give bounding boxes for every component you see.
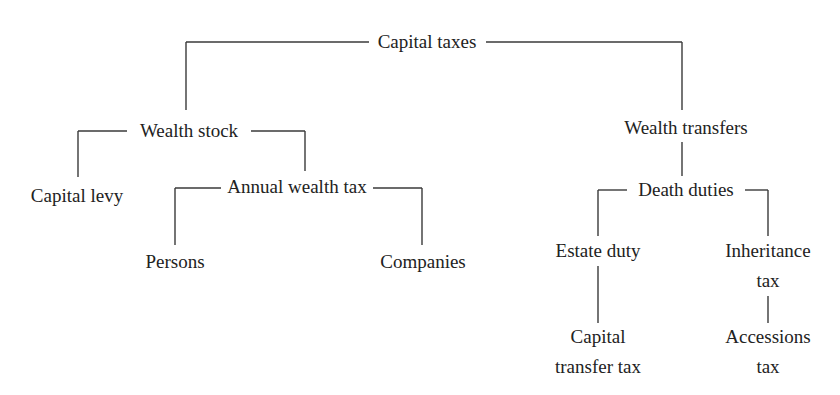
node-wealth-transfers: Wealth transfers	[624, 113, 748, 143]
accessions-tax-line2: tax	[725, 352, 810, 382]
inheritance-tax-line2: tax	[725, 266, 810, 296]
inheritance-tax-line1: Inheritance	[725, 236, 810, 266]
capital-transfer-tax-line2: transfer tax	[555, 352, 641, 382]
node-wealth-stock: Wealth stock	[140, 116, 238, 146]
accessions-tax-line1: Accessions	[725, 322, 810, 352]
node-capital-taxes: Capital taxes	[378, 27, 477, 57]
node-death-duties: Death duties	[638, 175, 734, 205]
node-estate-duty: Estate duty	[556, 236, 641, 266]
capital-taxes-tree-diagram: Capital taxes Wealth stock Wealth transf…	[0, 0, 840, 395]
capital-transfer-tax-line1: Capital	[555, 322, 641, 352]
node-capital-levy: Capital levy	[31, 181, 123, 211]
node-capital-transfer-tax: Capital transfer tax	[555, 322, 641, 382]
node-persons: Persons	[145, 247, 204, 277]
node-annual-wealth-tax: Annual wealth tax	[227, 172, 366, 202]
node-accessions-tax: Accessions tax	[725, 322, 810, 382]
node-companies: Companies	[380, 247, 466, 277]
node-inheritance-tax: Inheritance tax	[725, 236, 810, 296]
